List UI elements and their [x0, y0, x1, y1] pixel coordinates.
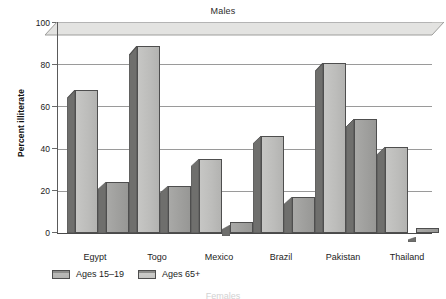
chart-figure: Males Percent illiterate 100 80 60 40 20…	[0, 0, 446, 299]
y-axis-line	[57, 22, 58, 234]
bar-thailand-ages-15-19	[385, 147, 408, 233]
x-tick-label-brazil: Brazil	[250, 252, 312, 262]
y-axis-label: Percent illiterate	[16, 58, 26, 188]
legend-swatch-icon	[52, 270, 70, 279]
gridline-60	[57, 106, 432, 107]
next-panel-title-clipped: Females	[0, 291, 446, 299]
legend-label-ages-65-plus: Ages 65+	[162, 269, 200, 279]
x-tick-label-togo: Togo	[126, 252, 188, 262]
bar-egypt-ages-15-19	[75, 90, 98, 233]
y-tick-label-80: 80	[24, 60, 50, 70]
bar-brazil-ages-65-plus	[292, 197, 315, 233]
bar-togo-ages-65-plus	[168, 186, 191, 233]
x-tick-label-egypt: Egypt	[64, 252, 126, 262]
legend-label-ages-15-19: Ages 15–19	[76, 269, 124, 279]
plot-floor	[45, 22, 444, 36]
legend-item-ages-15-19: Ages 15–19	[52, 269, 124, 279]
legend-swatch-icon	[138, 270, 156, 279]
bar-pakistan-ages-65-plus	[354, 119, 377, 233]
gridline-80	[57, 64, 432, 65]
bar-mexico-ages-15-19	[199, 159, 222, 233]
bar-brazil-ages-15-19	[261, 136, 284, 233]
y-tick-label-0: 0	[24, 228, 50, 238]
y-tick-label-60: 60	[24, 102, 50, 112]
x-tick-label-thailand: Thailand	[374, 252, 440, 262]
bar-egypt-ages-65-plus	[106, 182, 129, 233]
x-tick-label-pakistan: Pakistan	[312, 252, 374, 262]
chart-title: Males	[0, 6, 446, 16]
bar-togo-ages-15-19	[137, 46, 160, 233]
x-axis-line	[57, 233, 432, 234]
y-tick-label-40: 40	[24, 144, 50, 154]
x-tick-label-mexico: Mexico	[188, 252, 250, 262]
plot-area	[57, 22, 432, 233]
legend-item-ages-65-plus: Ages 65+	[138, 269, 200, 279]
bar-mexico-ages-65-plus	[230, 222, 253, 233]
bar-pakistan-ages-15-19	[323, 63, 346, 233]
bar-thailand-ages-65-plus	[416, 228, 439, 233]
chart-legend: Ages 15–19 Ages 65+	[52, 269, 200, 279]
y-tick-label-20: 20	[24, 186, 50, 196]
gridline-100	[57, 22, 432, 23]
